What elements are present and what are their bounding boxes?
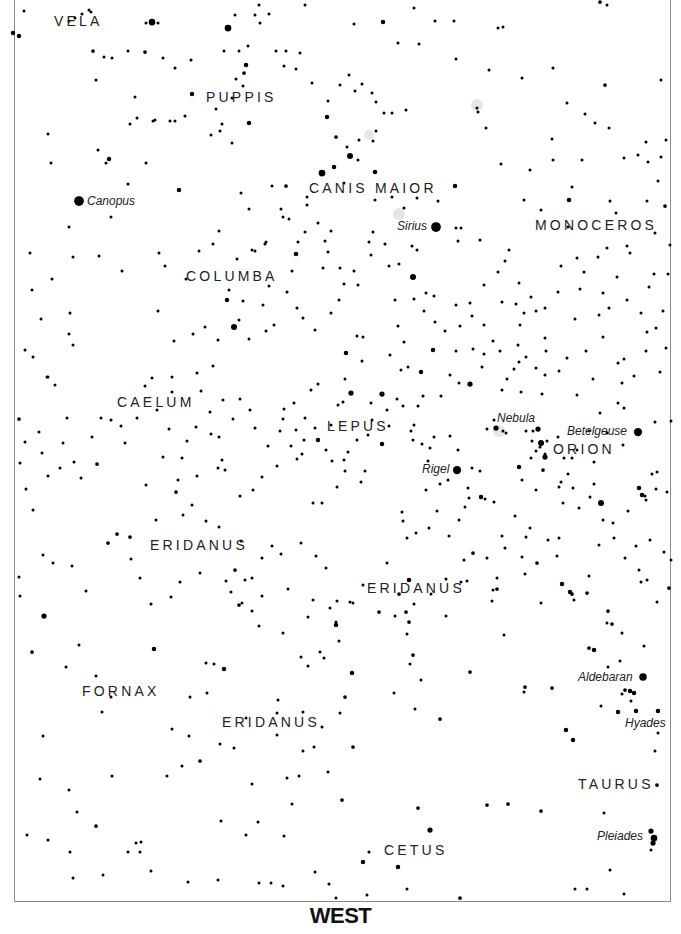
star: [491, 600, 494, 603]
star: [68, 789, 71, 792]
star: [520, 391, 523, 394]
star: [285, 50, 288, 53]
star: [247, 121, 252, 126]
star: [448, 535, 451, 538]
star: [222, 667, 227, 672]
star: [280, 208, 283, 211]
star: [145, 484, 148, 487]
star: [239, 495, 242, 498]
star: [493, 419, 496, 422]
star: [282, 885, 285, 888]
star: [342, 401, 345, 404]
star: [40, 318, 43, 321]
star: [171, 376, 174, 379]
star: [416, 249, 419, 252]
star: [254, 250, 257, 253]
star: [525, 536, 528, 539]
star: [218, 230, 221, 233]
star: [325, 567, 328, 570]
star: [396, 398, 399, 401]
star: [277, 699, 280, 702]
star: [579, 288, 582, 291]
star: [383, 112, 386, 115]
star: [338, 299, 341, 302]
star: [634, 428, 642, 436]
star: [372, 231, 375, 234]
star: [234, 14, 237, 17]
star: [230, 591, 233, 594]
star: [571, 186, 574, 189]
star: [17, 34, 22, 39]
constellation-label: CETUS: [384, 842, 447, 858]
star: [17, 417, 21, 421]
star: [598, 500, 604, 506]
star: [403, 341, 406, 344]
star: [325, 115, 330, 120]
star: [558, 486, 561, 489]
constellation-label: FORNAX: [82, 683, 160, 699]
star: [627, 510, 630, 513]
star: [282, 418, 285, 421]
star: [419, 370, 424, 375]
star: [325, 449, 328, 452]
star: [621, 693, 624, 696]
star: [640, 581, 643, 584]
star: [151, 377, 154, 380]
star: [288, 218, 291, 221]
star: [18, 576, 21, 579]
star: [357, 159, 360, 162]
star: [231, 142, 234, 145]
constellation-label: PUPPIS: [206, 89, 277, 105]
star: [101, 711, 104, 714]
star: [515, 303, 518, 306]
star: [669, 244, 672, 247]
star: [479, 495, 484, 500]
star: [518, 282, 521, 285]
star: [353, 23, 356, 26]
star: [232, 418, 235, 421]
star: [41, 452, 44, 455]
star: [357, 284, 360, 287]
star: [72, 344, 75, 347]
star: [353, 270, 356, 273]
star: [535, 489, 538, 492]
star: [525, 356, 528, 359]
star: [31, 289, 34, 292]
star: [127, 50, 130, 53]
star: [139, 577, 142, 580]
star: [640, 493, 645, 498]
star: [646, 579, 649, 582]
star: [249, 409, 252, 412]
star: [11, 31, 16, 36]
star: [592, 648, 597, 653]
star: [648, 828, 653, 833]
star: [110, 216, 113, 219]
star: [174, 67, 177, 70]
star: [438, 717, 442, 721]
star: [406, 888, 409, 891]
star: [242, 85, 245, 88]
star: [254, 14, 257, 17]
star: [608, 127, 611, 130]
star: [50, 162, 53, 165]
star: [552, 159, 555, 162]
star: [221, 123, 224, 126]
star: [410, 430, 413, 433]
star: [358, 139, 361, 142]
star: [655, 488, 658, 491]
star: [666, 491, 669, 494]
star: [397, 42, 400, 45]
star: [41, 613, 46, 618]
star: [97, 149, 100, 152]
star: [593, 461, 596, 464]
star: [190, 92, 195, 97]
star: [184, 115, 187, 118]
star: [273, 324, 276, 327]
star: [361, 360, 364, 363]
star: [530, 296, 533, 299]
star: [525, 430, 528, 433]
star: [233, 568, 237, 572]
star: [638, 569, 641, 572]
star: [171, 728, 174, 731]
star: [416, 197, 419, 200]
